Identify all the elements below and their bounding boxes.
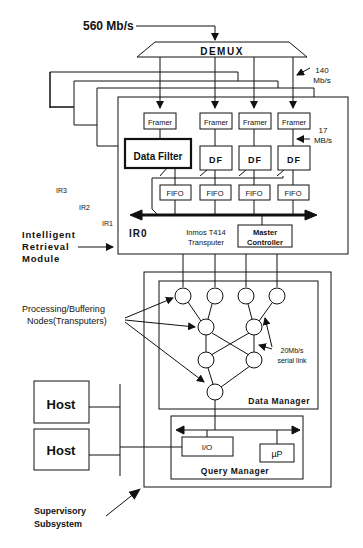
- ir0-label: IR0: [129, 228, 148, 239]
- framer-2: Framer: [204, 118, 229, 127]
- transputer-line1: Inmos T414: [186, 228, 225, 237]
- framer-4: Framer: [282, 118, 307, 127]
- master-controller-line2: Controller: [247, 238, 283, 247]
- irm-label-line1: Intelligent: [22, 229, 76, 240]
- ir1-frame: [97, 88, 118, 146]
- rate-140-unit: Mb/s: [313, 76, 330, 85]
- supervisory-label-line1: Supervisory: [34, 506, 86, 516]
- rate-17-value: 17: [319, 126, 328, 135]
- host-2-label: Host: [47, 443, 77, 458]
- master-controller-line1: Master: [253, 228, 277, 237]
- fifo-4: FIFO: [284, 189, 301, 198]
- transputer-line2: Transputer: [188, 238, 224, 247]
- rate-17-unit: MB/s: [314, 136, 332, 145]
- supervisory-label-line2: Subsystem: [34, 519, 82, 529]
- irm-label-line3: Module: [22, 253, 60, 264]
- rate-140-value: 140: [315, 66, 329, 75]
- demux-label: DEMUX: [200, 46, 244, 57]
- host-1-label: Host: [47, 397, 77, 412]
- query-manager-label: Query Manager: [201, 466, 270, 476]
- nodes-label-line2: Nodes(Transputers): [27, 316, 107, 326]
- ir3-label: IR3: [56, 187, 67, 194]
- io-label: I/O: [202, 443, 213, 452]
- ir1-label: IR1: [102, 220, 113, 227]
- fifo-2: FIFO: [206, 189, 223, 198]
- df-3: DF: [287, 155, 301, 165]
- system-diagram: 560 Mb/s DEMUX 140 Mb/s 17 MB/s Framer F…: [0, 0, 363, 548]
- input-arrow: [136, 26, 215, 40]
- framer-3: Framer: [243, 118, 268, 127]
- fifo-1: FIFO: [166, 189, 183, 198]
- serial-link-line2: serial link: [277, 357, 307, 364]
- ir2-label: IR2: [79, 204, 90, 211]
- fifo-3: FIFO: [245, 189, 262, 198]
- data-manager-label: Data Manager: [248, 396, 310, 406]
- df-2: DF: [248, 155, 262, 165]
- framer-1: Framer: [148, 118, 173, 127]
- serial-link-line1: 20Mb/s: [281, 347, 304, 354]
- input-rate-label: 560 Mb/s: [83, 19, 134, 33]
- microprocessor-label: µP: [271, 449, 282, 459]
- irm-label-line2: Retrieval: [22, 241, 69, 252]
- nodes-label-line1: Processing/Buffering: [22, 304, 105, 314]
- df-1: DF: [209, 155, 223, 165]
- ir2-frame: [74, 81, 97, 125]
- data-filter-label: Data Filter: [134, 151, 183, 162]
